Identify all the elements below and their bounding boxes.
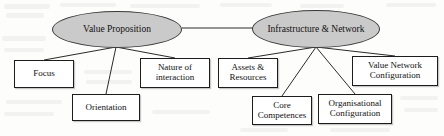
node-label: Value Proposition [81, 24, 153, 34]
node-label: Value Network Configuration [353, 61, 437, 80]
node-infrastructure-network[interactable]: Infrastructure & Network [252, 10, 380, 48]
node-label: Focus [31, 69, 57, 79]
node-label: Orientation [84, 103, 129, 113]
node-organisational-configuration[interactable]: Organisational Configuration [318, 94, 392, 124]
diagram-canvas: Value Proposition Infrastructure & Netwo… [0, 0, 444, 136]
node-label: Infrastructure & Network [265, 24, 366, 34]
node-label: Nature of interaction [141, 63, 209, 82]
node-focus[interactable]: Focus [14, 60, 74, 88]
connector-value-proposition-to-focus [44, 47, 116, 60]
connector-infrastructure-network-to-value-network-configuration [316, 47, 395, 56]
connector-infrastructure-network-to-assets-resources [248, 47, 316, 58]
node-assets-resources[interactable]: Assets & Resources [218, 58, 278, 88]
node-nature-of-interaction[interactable]: Nature of interaction [140, 58, 210, 88]
connector-value-proposition-to-nature-of-interaction [116, 47, 175, 58]
node-value-proposition[interactable]: Value Proposition [52, 11, 182, 48]
node-label: Core Competences [253, 101, 311, 120]
node-label: Organisational Configuration [319, 99, 391, 118]
connector-infrastructure-network-to-organisational-configuration [316, 47, 355, 94]
node-core-competences[interactable]: Core Competences [252, 96, 312, 125]
node-label: Assets & Resources [219, 63, 277, 82]
node-value-network-configuration[interactable]: Value Network Configuration [352, 56, 438, 86]
connector-value-proposition-to-orientation [106, 47, 116, 94]
connector-infrastructure-network-to-core-competences [282, 47, 316, 96]
node-orientation[interactable]: Orientation [72, 94, 140, 121]
